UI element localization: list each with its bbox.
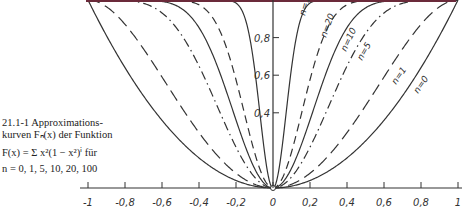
curve-label-n-1: n=1 xyxy=(389,65,408,86)
x-tick-label: -1 xyxy=(83,197,93,208)
x-tick-label: 1 xyxy=(455,197,461,208)
y-tick-label: 0,6 xyxy=(254,70,270,81)
y-tick-label: 0,8 xyxy=(254,33,270,44)
curve-label-n-5: n=5 xyxy=(355,40,373,62)
caption-line-4: n = 0, 1, 5, 10, 20, 100 xyxy=(2,163,98,175)
curve-label-n-0: n=0 xyxy=(411,74,430,96)
caption-line-2: kurven Fₙ(x) der Funktion xyxy=(2,129,98,141)
x-tick-label: -0,6 xyxy=(152,197,172,208)
approximation-chart: -1-0,8-0,6-0,4-0,200,20,40,60,81 0,40,60… xyxy=(0,0,462,217)
x-tick-label: 0,8 xyxy=(413,197,429,208)
x-tick-label: 0 xyxy=(270,197,276,208)
x-tick-label: 0,2 xyxy=(302,197,318,208)
caption-line-1: 21.1-1 Approximations- xyxy=(2,117,98,129)
curve-label-n-10: n=10 xyxy=(339,26,359,53)
figure-caption: 21.1-1 Approximations- kurven Fₙ(x) der … xyxy=(2,117,98,175)
x-tick-label: 0,6 xyxy=(376,197,392,208)
x-tick-label: 0,4 xyxy=(339,197,355,208)
curve-label-n-20: n=20 xyxy=(318,12,336,39)
x-tick-label: -0,2 xyxy=(226,197,246,208)
curve-label-n-100: n=100 xyxy=(297,0,315,17)
y-ticks: 0,40,60,8 xyxy=(254,33,279,119)
caption-line-3: F(x) = Σ x²(1 − x²)ⁱ für xyxy=(2,147,98,159)
curve-labels: n=0n=1n=5n=10n=20n=100 xyxy=(297,0,430,95)
x-tick-label: -0,8 xyxy=(115,197,135,208)
x-tick-label: -0,4 xyxy=(189,197,209,208)
y-tick-label: 0,4 xyxy=(254,108,270,119)
